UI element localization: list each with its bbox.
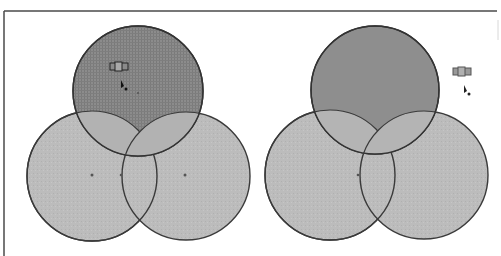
selection-handle-icon	[453, 67, 471, 76]
venn-diagram-canvas	[0, 0, 501, 256]
right-venn-group	[265, 26, 488, 240]
center-dot	[184, 174, 187, 177]
center-dot	[91, 174, 94, 177]
center-dot	[137, 92, 139, 94]
pointer-cursor-icon	[464, 85, 471, 96]
selection-handle-icon	[110, 62, 128, 71]
center-dot	[357, 174, 360, 177]
center-dot	[120, 174, 123, 177]
left-venn-group	[27, 26, 250, 241]
